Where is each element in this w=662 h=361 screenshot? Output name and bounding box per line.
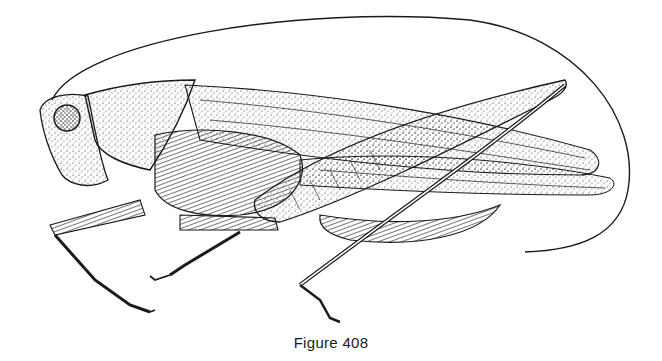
hind-tarsus	[300, 285, 340, 322]
figure-caption: Figure 408	[0, 334, 662, 351]
front-tibia	[55, 235, 150, 312]
ovipositor	[320, 205, 500, 242]
middle-tibia	[170, 232, 240, 275]
figure: Figure 408	[0, 0, 662, 361]
compound-eye	[54, 105, 80, 131]
katydid-illustration	[0, 0, 662, 361]
front-femur	[50, 200, 145, 235]
middle-femur	[180, 215, 278, 230]
